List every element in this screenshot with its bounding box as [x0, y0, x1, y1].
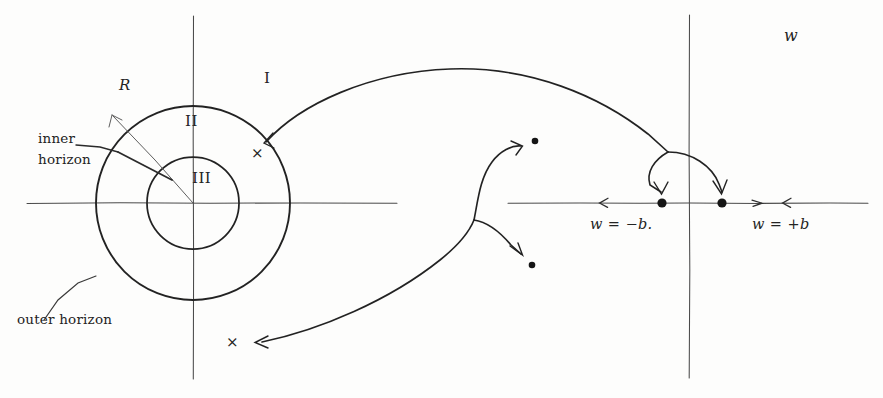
- inner-horizon-label-line1: inner: [38, 131, 75, 147]
- dot-upper-image: [532, 138, 539, 145]
- axis-label-w-plus-b: w = +b: [752, 216, 810, 233]
- cross-mark-lower: ×: [226, 334, 239, 352]
- lower-trajectory-curve: [255, 141, 523, 348]
- left-horizontal-axis: [27, 203, 397, 204]
- outer-horizon-label: outer horizon: [17, 312, 112, 328]
- dot-w-plus-b: [717, 198, 726, 207]
- right-vertical-axis: [689, 15, 690, 378]
- hand-drawn-conformal-map-diagram: w R I II III inner horizon outer horizon…: [0, 0, 883, 398]
- dot-lower-image: [529, 262, 536, 269]
- region-label-I: I: [264, 70, 270, 88]
- region-label-III: III: [192, 170, 211, 188]
- radius-label-R: R: [119, 77, 130, 95]
- inner-horizon-label-line2: horizon: [38, 152, 91, 168]
- right-horizontal-axis: [508, 203, 868, 204]
- axis-label-w-minus-b: w = −b.: [590, 216, 653, 233]
- region-label-II: II: [185, 113, 198, 131]
- diagram-canvas: [0, 0, 883, 398]
- w-plane-label: w: [784, 27, 798, 46]
- upper-trajectory-arc: [264, 69, 668, 152]
- branch-arrows-to-poles: [649, 152, 727, 194]
- dot-w-minus-b: [657, 198, 666, 207]
- cross-mark-upper: ×: [251, 145, 264, 163]
